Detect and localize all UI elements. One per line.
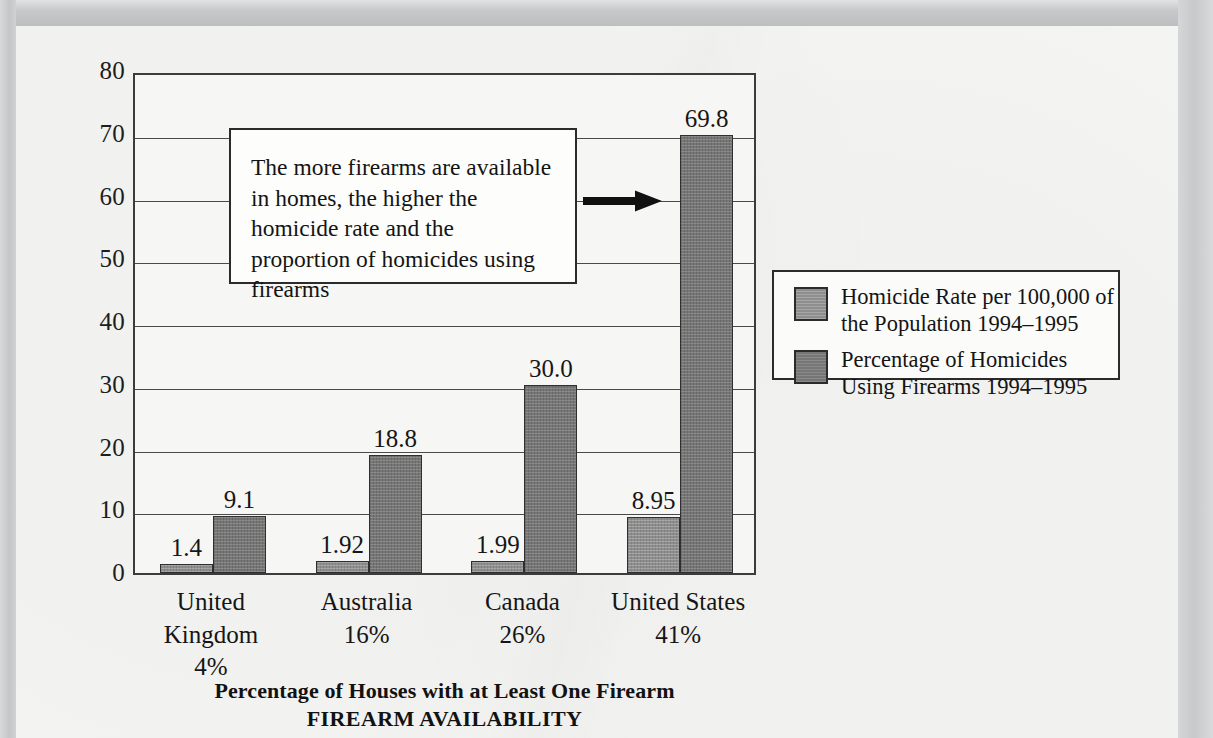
y-axis-tick-70: 70 xyxy=(79,120,125,148)
y-axis-tick-40: 40 xyxy=(79,308,125,336)
bar-australia-series2 xyxy=(369,455,422,573)
bar-value-label: 18.8 xyxy=(343,425,448,453)
bar-united-states-series1 xyxy=(627,517,680,573)
x-axis-titles: Percentage of Houses with at Least One F… xyxy=(133,678,756,732)
legend-item: Percentage of Homicides Using Firearms 1… xyxy=(794,346,1118,400)
annotation-text: The more firearms are available in homes… xyxy=(251,152,557,305)
legend-label-firearm-percentage: Percentage of Homicides Using Firearms 1… xyxy=(841,346,1118,400)
category-name: United Kingdom xyxy=(164,588,258,648)
bar-value-label: 30.0 xyxy=(498,355,603,383)
x-axis-category-labels: United Kingdom4%Australia16%Canada26%Uni… xyxy=(133,586,756,656)
y-axis-tick-50: 50 xyxy=(79,245,125,273)
x-axis-title: Percentage of Houses with at Least One F… xyxy=(133,678,756,704)
y-axis-tick-30: 30 xyxy=(79,371,125,399)
gridline-30 xyxy=(135,389,754,390)
chart-legend: Homicide Rate per 100,000 of the Populat… xyxy=(772,270,1120,380)
y-axis-tick-labels: 80706050403020100 xyxy=(75,73,125,575)
category-percentage: 26% xyxy=(445,619,601,652)
annotation-callout: The more firearms are available in homes… xyxy=(229,128,577,284)
bar-united-kingdom-series2 xyxy=(213,516,266,573)
y-axis-tick-80: 80 xyxy=(79,57,125,85)
bar-chart: 80706050403020100 1.49.11.9218.81.9930.0… xyxy=(0,0,1213,738)
x-axis-subtitle: FIREARM AVAILABILITY xyxy=(133,706,756,732)
category-name: United States xyxy=(611,588,745,615)
y-axis-tick-0: 0 xyxy=(79,559,125,587)
y-axis-tick-20: 20 xyxy=(79,434,125,462)
x-axis-label-canada: Canada26% xyxy=(445,586,601,651)
bar-australia-series1 xyxy=(316,561,369,573)
bar-canada-series1 xyxy=(471,561,524,573)
bar-canada-series2 xyxy=(524,385,577,573)
legend-label-homicide-rate: Homicide Rate per 100,000 of the Populat… xyxy=(841,283,1118,337)
legend-swatch-firearm-percentage xyxy=(794,350,828,384)
category-name: Australia xyxy=(321,588,413,615)
bar-united-kingdom-series1 xyxy=(160,564,213,573)
bar-united-states-series2 xyxy=(680,135,733,573)
legend-item: Homicide Rate per 100,000 of the Populat… xyxy=(794,283,1118,337)
category-percentage: 41% xyxy=(600,619,756,652)
y-axis-tick-60: 60 xyxy=(79,183,125,211)
gridline-40 xyxy=(135,326,754,327)
bar-value-label: 69.8 xyxy=(654,105,759,133)
bar-value-label: 9.1 xyxy=(187,486,292,514)
category-name: Canada xyxy=(485,588,560,615)
category-percentage: 16% xyxy=(289,619,445,652)
x-axis-label-united-states: United States41% xyxy=(600,586,756,651)
legend-swatch-homicide-rate xyxy=(794,287,828,321)
x-axis-label-united-kingdom: United Kingdom4% xyxy=(133,586,289,684)
x-axis-label-australia: Australia16% xyxy=(289,586,445,651)
annotation-arrow-icon xyxy=(583,190,663,212)
y-axis-tick-10: 10 xyxy=(79,496,125,524)
